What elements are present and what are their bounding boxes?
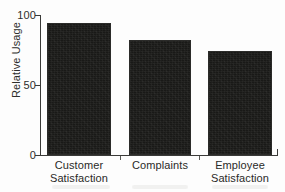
x-axis-left-cap: [40, 149, 41, 156]
category-label-line1: Employee: [204, 159, 276, 172]
category-label-line1: Complaints: [124, 159, 196, 172]
category-label-complaints: Complaints: [124, 159, 196, 172]
y-tick-label-0: 0: [30, 150, 36, 161]
y-tick-label-50: 50: [24, 80, 36, 91]
y-axis-title: Relative Usage: [10, 8, 22, 112]
category-label-line2: Satisfaction: [204, 172, 276, 185]
category-label-line2: Satisfaction: [43, 172, 115, 185]
scan-artifact: [132, 185, 188, 189]
category-label-line1: Customer: [43, 159, 115, 172]
x-tick-2: [199, 156, 200, 160]
category-label-employee-satisfaction: Employee Satisfaction: [204, 159, 276, 185]
x-axis-line: [40, 155, 278, 156]
category-label-customer-satisfaction: Customer Satisfaction: [43, 159, 115, 185]
scan-artifact: [212, 185, 268, 189]
bar-customer-satisfaction: [47, 23, 111, 155]
x-axis-right-cap: [277, 149, 278, 156]
bar-complaints: [129, 40, 191, 155]
plot-area: 100 50 0 Relative Usage Customer Satisfa…: [0, 0, 285, 192]
bar-employee-satisfaction: [208, 51, 272, 155]
scan-artifact: [52, 185, 110, 189]
x-tick-1: [120, 156, 121, 160]
bar-chart-figure: 100 50 0 Relative Usage Customer Satisfa…: [0, 0, 285, 192]
